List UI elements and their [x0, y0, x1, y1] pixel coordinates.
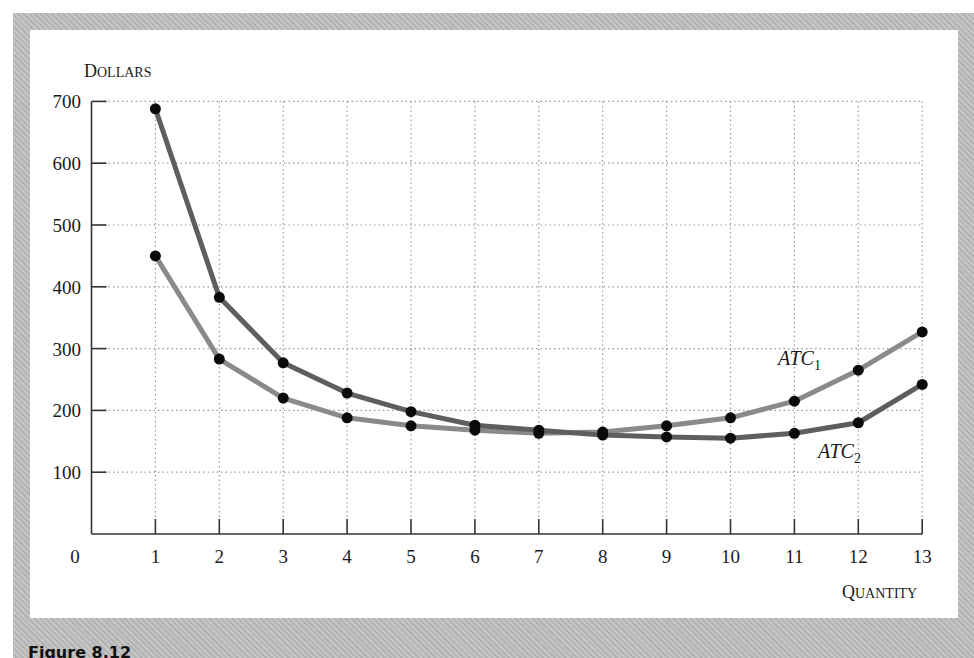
- x-tick-label: 2: [215, 546, 225, 567]
- atc1-point: [789, 396, 800, 407]
- atc2-point: [725, 433, 736, 444]
- atc2-point: [917, 379, 928, 390]
- x-tick-label: 4: [342, 546, 352, 567]
- y-axis-title: DOLLARS: [84, 61, 151, 81]
- atc2-label: ATC2: [816, 440, 861, 466]
- atc2-point: [789, 428, 800, 439]
- atc2-point: [469, 420, 480, 431]
- x-tick-label: 10: [721, 546, 740, 567]
- atc2-point: [533, 425, 544, 436]
- x-tick-label: 9: [662, 546, 672, 567]
- atc2-point: [214, 292, 225, 303]
- x-tick-label: 1: [151, 546, 161, 567]
- axes: [92, 101, 923, 534]
- y-tick-label: 600: [53, 153, 82, 174]
- atc1-point: [853, 365, 864, 376]
- atc1-point: [406, 420, 417, 431]
- atc1-label: ATC1: [776, 347, 821, 373]
- x-tick-label: 13: [913, 546, 932, 567]
- y-tick-label: 500: [53, 215, 82, 236]
- atc2-point: [597, 430, 608, 441]
- y-tick-label: 400: [53, 277, 82, 298]
- atc1-point: [214, 354, 225, 365]
- atc2-point: [278, 357, 289, 368]
- atc2-point: [853, 417, 864, 428]
- x-tick-label: 3: [278, 546, 288, 567]
- x-tick-label: 12: [849, 546, 868, 567]
- x-tick-label: 8: [598, 546, 608, 567]
- x-axis-title: QUANTITY: [842, 582, 917, 602]
- x-tick-label: 7: [534, 546, 544, 567]
- atc1-point: [917, 326, 928, 337]
- y-tick-label: 700: [53, 91, 82, 112]
- atc2-point: [406, 406, 417, 417]
- y-tick-label: 200: [53, 400, 82, 421]
- y-tick-label: 100: [53, 462, 82, 483]
- gridlines: [100, 101, 923, 518]
- atc2-point: [661, 431, 672, 442]
- chart: 100200300400500600700012345678910111213 …: [0, 0, 974, 658]
- y-tick-label: 300: [53, 339, 82, 360]
- atc1-point: [342, 412, 353, 423]
- x-tick-label: 0: [70, 546, 80, 567]
- atc1-point: [661, 420, 672, 431]
- atc2-point: [150, 103, 161, 114]
- x-tick-label: 5: [406, 546, 416, 567]
- atc1-point: [725, 412, 736, 423]
- atc1-point: [278, 393, 289, 404]
- atc1-point: [150, 250, 161, 261]
- atc2-point: [342, 388, 353, 399]
- x-tick-label: 6: [470, 546, 480, 567]
- x-tick-label: 11: [785, 546, 803, 567]
